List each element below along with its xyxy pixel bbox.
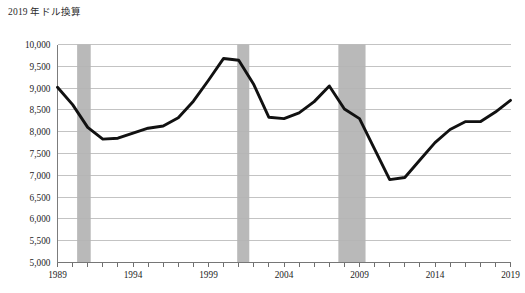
x-axis-tick-labels: 1989199419992004200920142019	[48, 270, 520, 280]
y-tick-label: 7,500	[30, 149, 51, 159]
y-tick-label: 5,500	[30, 236, 51, 246]
x-tick-label: 2009	[350, 270, 369, 280]
y-tick-label: 9,000	[30, 84, 51, 94]
series-line	[58, 58, 511, 179]
x-tick-label: 1989	[48, 270, 67, 280]
y-tick-label: 10,000	[25, 40, 51, 50]
x-axis-group	[58, 45, 511, 267]
x-tick-label: 2019	[501, 270, 520, 280]
data-series-group	[58, 58, 511, 179]
y-tick-label: 9,500	[30, 62, 51, 72]
x-tick-label: 2014	[426, 270, 445, 280]
x-tick-label: 1999	[199, 270, 218, 280]
x-tick-label: 1994	[124, 270, 143, 280]
y-tick-label: 8,500	[30, 105, 51, 115]
y-tick-label: 7,000	[30, 171, 51, 181]
chart-figure: 2019 年ドル換算 10,0009,5009,0008,5008,0007,5…	[0, 0, 525, 293]
y-tick-label: 6,000	[30, 214, 51, 224]
y-tick-label: 8,000	[30, 127, 51, 137]
y-tick-label: 5,000	[30, 258, 51, 268]
line-chart-plot: 10,0009,5009,0008,5008,0007,5007,0006,50…	[0, 0, 525, 293]
y-axis-tick-labels: 10,0009,5009,0008,5008,0007,5007,0006,50…	[25, 40, 51, 268]
x-tick-label: 2004	[275, 270, 294, 280]
gridlines-group	[58, 45, 511, 263]
y-tick-label: 6,500	[30, 193, 51, 203]
